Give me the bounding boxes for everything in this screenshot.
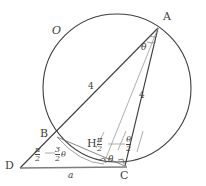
angle-label-A-theta-over-2: θ 2 [126,136,132,153]
point-label-B: B [40,128,48,139]
angle-label-D-pi-over-2: π 2 [35,146,41,163]
fraction-denominator: 2 [126,144,131,153]
length-label-DC: a [68,171,73,180]
point-label-H: H [87,138,97,149]
point-label-C: C [120,170,128,181]
fraction-numerator: π [97,136,102,144]
circle-O [43,14,191,162]
point-label-O: O [52,25,61,36]
length-label-AC: 4 [139,91,145,100]
point-label-A: A [163,11,171,22]
slash-mid-H [118,131,126,150]
segment-D-C [20,167,127,168]
fraction-numerator: π [35,146,40,154]
angle-label-B-three-halves-theta: 3 2 θ [55,146,66,163]
geometry-figure: A B C D H O 4 4 a θ θ π 2 3 2 θ π 2 θ 2 [0,0,206,186]
fraction-tail: θ [60,151,66,159]
slash-right-H [137,131,143,152]
fraction-numerator: θ [126,136,131,144]
length-label-BA: 4 [88,82,94,91]
angle-label-A-theta: θ [141,43,146,52]
angle-label-C-theta: θ [108,155,113,164]
figure-canvas [0,0,206,186]
angle-label-H-pi-over-2: π 2 [97,136,103,153]
fraction-denominator: 2 [97,144,102,153]
fraction-denominator: 2 [35,154,40,163]
point-label-D: D [5,160,14,171]
